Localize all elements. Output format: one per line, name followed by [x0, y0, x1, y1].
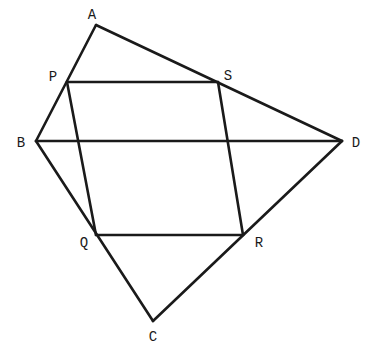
geometry-diagram: A B C D P Q R S: [0, 0, 375, 354]
segment-cd: [153, 141, 342, 321]
point-label-s: S: [224, 68, 232, 84]
point-label-p: P: [49, 69, 57, 85]
labels-group: A B C D P Q R S: [17, 7, 360, 345]
vertex-label-b: B: [17, 135, 25, 151]
vertex-label-d: D: [352, 135, 360, 151]
vertex-label-a: A: [88, 7, 97, 23]
point-label-r: R: [255, 235, 264, 251]
edges-group: [36, 25, 342, 321]
point-label-q: Q: [80, 235, 88, 251]
segment-sr: [218, 82, 243, 235]
vertex-label-c: C: [149, 329, 157, 345]
